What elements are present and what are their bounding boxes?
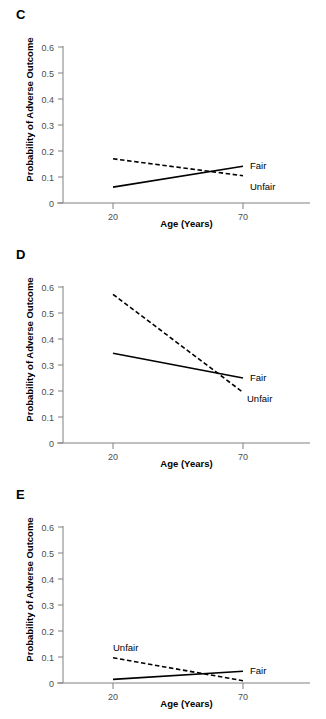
y-tick-1-d: 0.1 xyxy=(41,413,63,423)
x-tick-label-70-d: 70 xyxy=(238,452,248,462)
x-axis-d: 20 70 xyxy=(57,443,310,462)
series-line-unfair-c xyxy=(113,159,243,176)
x-tick-70-c: 70 xyxy=(238,203,248,222)
y-tick-1-e: 0.1 xyxy=(41,653,63,663)
y-tick-6-e: 0.6 xyxy=(41,523,63,533)
y-tick-label-6-e: 0.6 xyxy=(41,523,54,533)
x-tick-label-20-c: 20 xyxy=(108,212,118,222)
y-tick-5-e: 0.5 xyxy=(41,549,63,559)
y-tick-label-2-e: 0.2 xyxy=(41,627,54,637)
y-axis-e: 0 0.1 0.2 0.3 0.4 0.5 0.6 xyxy=(41,523,63,689)
y-axis-d: 0 0.1 0.2 0.3 0.4 0.5 0.6 xyxy=(41,283,63,449)
plot-area-c: 0 0.1 0.2 0.3 0.4 0.5 0.6 20 70 Fair Unf… xyxy=(0,0,326,240)
y-tick-3-d: 0.3 xyxy=(41,361,63,371)
series-line-fair-e xyxy=(113,671,243,679)
y-tick-5-d: 0.5 xyxy=(41,309,63,319)
y-tick-4-c: 0.4 xyxy=(41,95,63,105)
y-tick-2-e: 0.2 xyxy=(41,627,63,637)
series-line-unfair-e xyxy=(113,658,243,681)
x-tick-20-e: 20 xyxy=(108,683,118,702)
y-tick-label-5-d: 0.5 xyxy=(41,309,54,319)
x-tick-label-20-e: 20 xyxy=(108,692,118,702)
x-tick-70-d: 70 xyxy=(238,443,248,462)
x-tick-20-c: 20 xyxy=(108,203,118,222)
y-tick-label-3-d: 0.3 xyxy=(41,361,54,371)
x-axis-e: 20 70 xyxy=(57,683,310,702)
plot-area-d: 0 0.1 0.2 0.3 0.4 0.5 0.6 20 70 Fair Unf… xyxy=(0,240,326,480)
y-tick-label-2-d: 0.2 xyxy=(41,387,54,397)
y-tick-4-d: 0.4 xyxy=(41,335,63,345)
y-axis-c: 0 0.1 0.2 0.3 0.4 0.5 0.6 xyxy=(41,43,63,209)
y-tick-label-6-d: 0.6 xyxy=(41,283,54,293)
y-tick-label-5-c: 0.5 xyxy=(41,69,54,79)
panel-e: E Probability of Adverse Outcome Age (Ye… xyxy=(0,480,326,719)
x-tick-20-d: 20 xyxy=(108,443,118,462)
y-tick-label-4-e: 0.4 xyxy=(41,575,54,585)
y-tick-4-e: 0.4 xyxy=(41,575,63,585)
series-line-unfair-d xyxy=(113,294,243,392)
y-tick-label-3-c: 0.3 xyxy=(41,121,54,131)
series-label-unfair-c: Unfair xyxy=(250,181,275,192)
series-line-fair-d xyxy=(113,353,243,378)
y-tick-2-d: 0.2 xyxy=(41,387,63,397)
y-tick-label-1-d: 0.1 xyxy=(41,413,54,423)
x-tick-70-e: 70 xyxy=(238,683,248,702)
y-tick-label-5-e: 0.5 xyxy=(41,549,54,559)
y-tick-label-6-c: 0.6 xyxy=(41,43,54,53)
y-tick-1-c: 0.1 xyxy=(41,173,63,183)
series-label-fair-c: Fair xyxy=(250,160,266,171)
y-tick-label-0-d: 0 xyxy=(49,439,54,449)
y-tick-3-e: 0.3 xyxy=(41,601,63,611)
y-tick-3-c: 0.3 xyxy=(41,121,63,131)
y-tick-label-1-e: 0.1 xyxy=(41,653,54,663)
y-tick-label-0-e: 0 xyxy=(49,679,54,689)
y-tick-6-c: 0.6 xyxy=(41,43,63,53)
x-tick-label-70-e: 70 xyxy=(238,692,248,702)
y-tick-label-4-c: 0.4 xyxy=(41,95,54,105)
plot-area-e: 0 0.1 0.2 0.3 0.4 0.5 0.6 20 70 Fair Unf… xyxy=(0,480,326,719)
panel-d: D Probability of Adverse Outcome Age (Ye… xyxy=(0,240,326,480)
y-tick-label-2-c: 0.2 xyxy=(41,147,54,157)
x-axis-c: 20 70 xyxy=(57,203,310,222)
series-label-unfair-e: Unfair xyxy=(113,642,138,653)
series-label-unfair-d: Unfair xyxy=(247,393,272,404)
series-label-fair-e: Fair xyxy=(250,665,266,676)
x-tick-label-70-c: 70 xyxy=(238,212,248,222)
y-tick-label-0-c: 0 xyxy=(49,199,54,209)
y-tick-label-3-e: 0.3 xyxy=(41,601,54,611)
x-tick-label-20-d: 20 xyxy=(108,452,118,462)
series-line-fair-c xyxy=(113,166,243,187)
series-label-fair-d: Fair xyxy=(250,372,266,383)
y-tick-label-4-d: 0.4 xyxy=(41,335,54,345)
y-tick-2-c: 0.2 xyxy=(41,147,63,157)
y-tick-6-d: 0.6 xyxy=(41,283,63,293)
y-tick-label-1-c: 0.1 xyxy=(41,173,54,183)
y-tick-5-c: 0.5 xyxy=(41,69,63,79)
panel-c: C Probability of Adverse Outcome Age (Ye… xyxy=(0,0,326,240)
